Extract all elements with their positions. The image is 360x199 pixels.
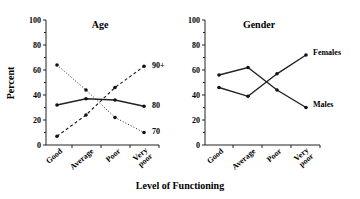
series-80-line <box>57 99 144 107</box>
svg-text:80: 80 <box>192 41 200 50</box>
chart-figure: Percent 0 20 40 60 80 100 Age <box>0 0 360 199</box>
svg-text:Average: Average <box>230 146 257 171</box>
svg-text:Good: Good <box>205 146 226 165</box>
series-label-females: Females <box>313 48 341 57</box>
series-males-line <box>219 68 306 108</box>
series-label-70: 70 <box>152 127 160 136</box>
svg-text:0: 0 <box>196 141 200 150</box>
svg-text:Poor: Poor <box>104 146 123 164</box>
svg-text:80: 80 <box>33 41 41 50</box>
svg-text:100: 100 <box>188 16 200 25</box>
age-x-tick-labels: Good Average Poor Very poor <box>44 146 154 172</box>
svg-text:Good: Good <box>44 146 65 165</box>
series-label-males: Males <box>313 100 333 109</box>
svg-text:60: 60 <box>192 66 200 75</box>
series-label-90plus: 90+ <box>152 61 165 70</box>
y-axis-label: Percent <box>5 66 16 99</box>
svg-text:20: 20 <box>192 116 200 125</box>
series-females-line <box>219 55 306 96</box>
svg-text:60: 60 <box>33 66 41 75</box>
gender-y-tick-labels: 0 20 40 60 80 100 <box>188 16 200 150</box>
gender-title: Gender <box>243 19 276 30</box>
svg-text:0: 0 <box>37 141 41 150</box>
gender-panel: 0 20 40 60 80 100 Gender Females Males G… <box>188 16 341 171</box>
age-panel: 0 20 40 60 80 100 Age 90+ 80 70 Good Ave… <box>29 16 165 171</box>
svg-text:40: 40 <box>192 91 200 100</box>
svg-text:Average: Average <box>68 146 95 171</box>
age-y-tick-labels: 0 20 40 60 80 100 <box>29 16 41 150</box>
x-axis-label: Level of Functioning <box>136 180 224 191</box>
svg-text:100: 100 <box>29 16 41 25</box>
svg-text:Poor: Poor <box>265 146 284 164</box>
svg-text:40: 40 <box>33 91 41 100</box>
series-label-80: 80 <box>152 101 160 110</box>
svg-text:20: 20 <box>33 116 41 125</box>
age-title: Age <box>92 19 109 30</box>
gender-x-tick-labels: Good Average Poor Very poor <box>205 146 315 172</box>
